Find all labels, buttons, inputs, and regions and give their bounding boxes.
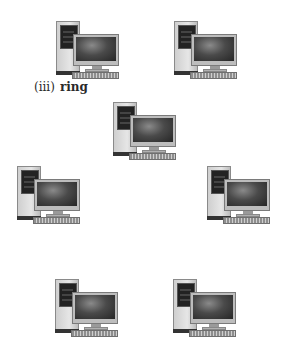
keyboard-icon (71, 330, 118, 337)
computer-2-desktop-computer-icon (174, 21, 238, 79)
monitor-icon (224, 179, 270, 211)
monitor-icon (34, 179, 80, 211)
monitor-icon (190, 292, 236, 324)
keyboard-icon (129, 153, 176, 160)
keyboard-icon (33, 217, 80, 224)
monitor-icon (73, 34, 119, 66)
monitor-icon (191, 34, 237, 66)
computer-6-desktop-computer-icon (55, 279, 119, 337)
keyboard-icon (189, 330, 236, 337)
diagram-label-number: (iii) (34, 80, 55, 94)
diagram-label: (iii)ring (34, 80, 88, 94)
keyboard-icon (72, 72, 119, 79)
computer-7-desktop-computer-icon (173, 279, 237, 337)
monitor-icon (72, 292, 118, 324)
keyboard-icon (190, 72, 237, 79)
computer-3-desktop-computer-icon (113, 102, 177, 160)
computer-5-desktop-computer-icon (207, 166, 271, 224)
diagram-label-name: ring (60, 80, 88, 94)
computer-1-desktop-computer-icon (56, 21, 120, 79)
monitor-icon (130, 115, 176, 147)
computer-4-desktop-computer-icon (17, 166, 81, 224)
keyboard-icon (223, 217, 270, 224)
